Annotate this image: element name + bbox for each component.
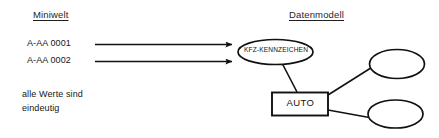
diagram-vector-layer bbox=[0, 0, 439, 138]
entity-label-auto: AUTO bbox=[272, 97, 329, 108]
connector-kfz-to-auto bbox=[282, 63, 297, 92]
attribute-label-kfz-kennzeichen: KFZ-KENNZEICHEN bbox=[238, 46, 314, 53]
connector-auto-to-attribute-lower bbox=[328, 110, 372, 118]
connector-auto-to-attribute-upper bbox=[328, 66, 374, 95]
attribute-ellipse-lower bbox=[368, 100, 423, 128]
attribute-ellipse-upper bbox=[370, 50, 425, 79]
diagram-canvas: Miniwelt Datenmodell A-AA 0001 A-AA 0002… bbox=[0, 0, 439, 138]
